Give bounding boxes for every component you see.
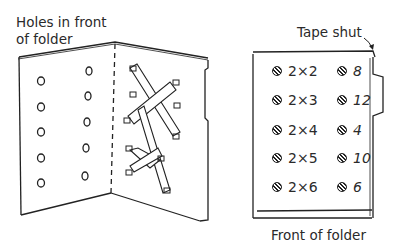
problem-row-1: 2×2 bbox=[272, 63, 318, 79]
hole-icon bbox=[272, 153, 282, 163]
hole-icon bbox=[272, 182, 282, 192]
hole-icon bbox=[272, 95, 282, 105]
answer-value: 8 bbox=[353, 63, 362, 79]
problem-expr: 2×4 bbox=[288, 122, 318, 138]
hole-icon bbox=[272, 66, 282, 76]
problem-expr: 2×2 bbox=[288, 63, 318, 79]
hole-icon bbox=[337, 125, 347, 135]
problem-expr: 2×5 bbox=[288, 150, 318, 166]
hole-icon bbox=[337, 153, 347, 163]
answer-value: 10 bbox=[353, 150, 371, 166]
open-folder-drawing bbox=[18, 42, 208, 221]
hole-icon bbox=[337, 66, 347, 76]
holes-label-line1: Holes in front bbox=[16, 14, 107, 30]
answer-value: 6 bbox=[353, 179, 362, 195]
answer-value: 12 bbox=[353, 92, 371, 108]
holes-label-line2: of folder bbox=[16, 31, 73, 47]
answer-value: 4 bbox=[353, 122, 362, 138]
answer-row-4: 10 bbox=[337, 150, 371, 166]
answer-row-3: 4 bbox=[337, 122, 362, 138]
answer-row-2: 12 bbox=[337, 92, 371, 108]
hole-icon bbox=[272, 125, 282, 135]
problem-row-4: 2×5 bbox=[272, 150, 318, 166]
hole-icon bbox=[337, 95, 347, 105]
problem-row-5: 2×6 bbox=[272, 179, 318, 195]
problem-expr: 2×6 bbox=[288, 179, 318, 195]
front-of-folder-label: Front of folder bbox=[271, 227, 366, 243]
problem-row-2: 2×3 bbox=[272, 92, 318, 108]
problem-expr: 2×3 bbox=[288, 92, 318, 108]
answer-row-1: 8 bbox=[337, 63, 362, 79]
hole-icon bbox=[337, 182, 347, 192]
answer-row-5: 6 bbox=[337, 179, 362, 195]
problem-row-3: 2×4 bbox=[272, 122, 318, 138]
tape-shut-label: Tape shut bbox=[297, 24, 362, 40]
